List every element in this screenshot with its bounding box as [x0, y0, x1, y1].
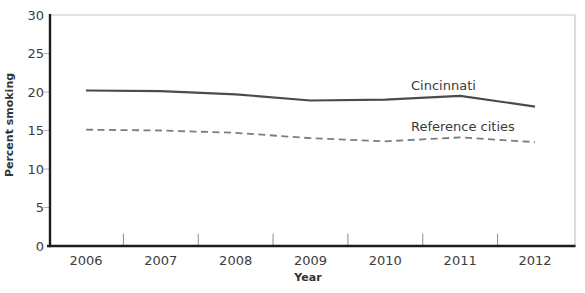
y-axis-tick-label: 20: [27, 85, 44, 100]
x-axis-title: Year: [293, 271, 322, 284]
x-axis-tick-label: 2009: [294, 253, 327, 268]
x-axis-tick-label: 2011: [444, 253, 477, 268]
x-axis-tick-label: 2010: [369, 253, 402, 268]
chart-canvas: 0510152025302006200720082009201020112012…: [0, 0, 585, 293]
y-axis-tick-label: 10: [27, 162, 44, 177]
series-label-cincinnati: Cincinnati: [411, 78, 476, 93]
y-axis-tick-label: 15: [27, 123, 44, 138]
line-chart-figure: 0510152025302006200720082009201020112012…: [0, 0, 585, 293]
y-axis-title: Percent smoking: [3, 73, 16, 177]
series-label-reference-cities: Reference cities: [411, 119, 515, 134]
y-axis-tick-label: 30: [27, 8, 44, 23]
y-axis-tick-label: 0: [36, 239, 44, 254]
chart-generated-layer: 0510152025302006200720082009201020112012: [27, 8, 575, 268]
x-axis-tick-label: 2012: [518, 253, 551, 268]
y-axis-tick-label: 25: [27, 46, 44, 61]
x-axis-tick-label: 2007: [144, 253, 177, 268]
y-axis-tick-label: 5: [36, 200, 44, 215]
x-axis-tick-label: 2008: [219, 253, 252, 268]
x-axis-tick-label: 2006: [69, 253, 102, 268]
